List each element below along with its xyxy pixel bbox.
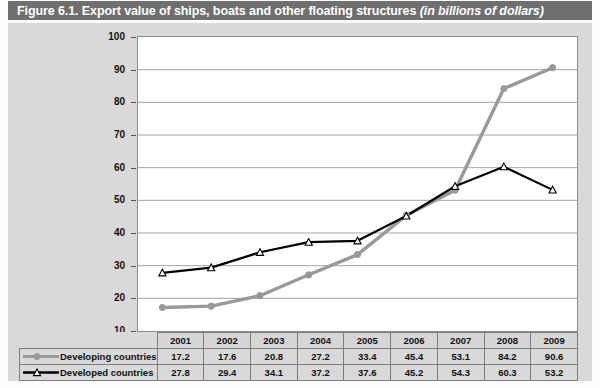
table-column-header-year: 2006: [391, 333, 438, 349]
legend-entry-developing: Developing countries: [22, 351, 157, 362]
y-axis-tick-mark: [131, 168, 136, 169]
table-column-header-year: 2004: [297, 333, 344, 349]
y-axis-tick-mark: [131, 298, 136, 299]
legend-entry-developed: Developed countries: [22, 367, 157, 378]
table-column-header-year: 2001: [157, 333, 204, 349]
table-cell-developed: 34.1: [251, 365, 298, 381]
data-point-developing: [354, 251, 360, 257]
legend-marker-developing: [22, 351, 60, 362]
line-chart-svg: [138, 37, 577, 331]
legend-marker-developed: [22, 367, 60, 378]
table-cell-developing: 17.6: [204, 349, 251, 365]
y-axis-tick-label: 70: [97, 130, 125, 140]
table-column-header-year: 2008: [484, 333, 531, 349]
y-axis-tick-mark: [131, 37, 136, 38]
figure-title-main: Figure 6.1. Export value of ships, boats…: [17, 4, 420, 18]
table-column-header-year: 2007: [437, 333, 484, 349]
table-row-developed: Developed countries 27.829.434.137.237.6…: [20, 365, 578, 381]
table-header-row: 200120022003200420052006200720082009: [20, 333, 578, 349]
data-point-developing: [550, 65, 556, 71]
table-cell-developed: 27.8: [157, 365, 204, 381]
figure-title: Figure 6.1. Export value of ships, boats…: [8, 4, 544, 18]
y-axis-tick-label: 20: [97, 293, 125, 303]
y-axis-tick-label: 90: [97, 65, 125, 75]
data-point-developing: [306, 272, 312, 278]
figure-title-bar: Figure 6.1. Export value of ships, boats…: [8, 1, 592, 20]
table-column-header-year: 2002: [204, 333, 251, 349]
y-axis-tick-mark: [131, 200, 136, 201]
data-point-developing: [208, 303, 214, 309]
y-axis-tick-mark: [131, 233, 136, 234]
table-cell-developed: 60.3: [484, 365, 531, 381]
y-axis-tick-label: 30: [97, 261, 125, 271]
table-cell-developing: 53.1: [437, 349, 484, 365]
y-axis-tick-label: 60: [97, 163, 125, 173]
table-cell-developed: 54.3: [437, 365, 484, 381]
y-axis-tick-mark: [131, 135, 136, 136]
data-point-developing: [501, 86, 507, 92]
legend-label-developed: Developed countries: [60, 367, 153, 378]
table-column-header-year: 2009: [531, 333, 578, 349]
legend-cell-developed: Developed countries: [20, 365, 158, 381]
series-line-developing: [162, 68, 552, 308]
table-row-developing: Developing countries 17.217.620.827.233.…: [20, 349, 578, 365]
y-axis-tick-label: 40: [97, 228, 125, 238]
plot-area: [137, 36, 578, 332]
figure-title-italic: (in billions of dollars): [420, 4, 544, 18]
table-cell-developed: 53.2: [531, 365, 578, 381]
table-cell-developed: 29.4: [204, 365, 251, 381]
table-cell-developed: 37.6: [344, 365, 391, 381]
y-axis-tick-label: 100: [97, 32, 125, 42]
table-corner-cell: [20, 333, 158, 349]
table-cell-developing: 27.2: [297, 349, 344, 365]
data-table: 200120022003200420052006200720082009 Dev…: [19, 332, 578, 381]
legend-label-developing: Developing countries: [60, 351, 157, 362]
data-point-developed: [500, 163, 507, 170]
table-column-header-year: 2003: [251, 333, 298, 349]
y-axis-tick-mark: [131, 266, 136, 267]
table-cell-developing: 90.6: [531, 349, 578, 365]
table-cell-developed: 45.2: [391, 365, 438, 381]
table-cell-developing: 45.4: [391, 349, 438, 365]
y-axis-tick-label: 80: [97, 97, 125, 107]
y-axis-tick-mark: [131, 102, 136, 103]
data-point-developing: [257, 293, 263, 299]
table-cell-developing: 84.2: [484, 349, 531, 365]
data-point-developing: [159, 304, 165, 310]
y-axis-tick-mark: [131, 70, 136, 71]
table-cell-developing: 33.4: [344, 349, 391, 365]
table-cell-developing: 17.2: [157, 349, 204, 365]
figure-container: Figure 6.1. Export value of ships, boats…: [0, 0, 600, 388]
legend-cell-developing: Developing countries: [20, 349, 158, 365]
y-axis-tick-label: 50: [97, 195, 125, 205]
table-column-header-year: 2005: [344, 333, 391, 349]
table-cell-developed: 37.2: [297, 365, 344, 381]
table-cell-developing: 20.8: [251, 349, 298, 365]
